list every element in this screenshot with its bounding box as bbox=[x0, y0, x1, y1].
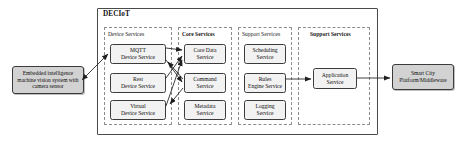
arrow-mqtt-command bbox=[166, 60, 182, 82]
arrow-command-virtual bbox=[170, 88, 183, 104]
arrow-mqtt-coredata bbox=[166, 48, 182, 50]
arrow-embedded-mqtt bbox=[86, 54, 108, 76]
diagram-canvas: DECIoT Device Services Core Services Sup… bbox=[0, 0, 464, 144]
connection-arrows bbox=[0, 0, 464, 144]
